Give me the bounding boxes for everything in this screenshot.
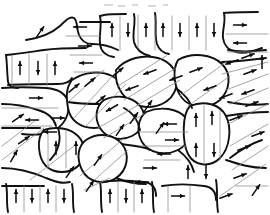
grain-boundary — [184, 103, 230, 164]
diagram-canvas — [0, 0, 270, 215]
grain-boundary — [39, 128, 84, 172]
grain-boundary — [97, 97, 145, 139]
magnetic-domain-diagram — [0, 0, 270, 215]
grain-boundary — [175, 55, 229, 107]
grain-boundary — [224, 12, 258, 13]
grain-boundary — [139, 109, 191, 154]
